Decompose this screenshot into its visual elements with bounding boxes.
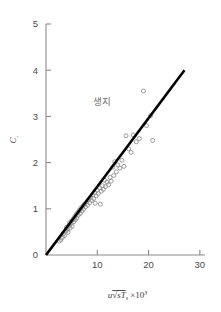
regression-line	[46, 70, 184, 255]
y-tick-label: 4	[33, 65, 38, 76]
y-tick-label: 5	[33, 18, 38, 29]
data-point	[93, 201, 97, 205]
x-tick-label: 20	[143, 259, 154, 270]
scatter-plot: 012345102030생지Cₐu√sTs ×103	[0, 0, 221, 312]
data-point	[134, 140, 138, 144]
y-tick-label: 3	[33, 111, 38, 122]
data-point	[122, 164, 126, 168]
y-axis-title: Cₐ	[8, 135, 19, 143]
data-point	[124, 134, 128, 138]
y-tick-label: 2	[33, 157, 38, 168]
data-point	[129, 150, 133, 154]
data-point	[151, 138, 155, 142]
data-point	[120, 158, 124, 162]
data-point	[114, 170, 118, 174]
data-point	[112, 174, 116, 178]
x-axis-title: u√sTs ×103	[108, 290, 148, 301]
data-point	[118, 166, 122, 170]
x-tick-label: 30	[195, 259, 206, 270]
chart-annotation: 생지	[93, 96, 111, 107]
data-point	[109, 179, 113, 183]
data-point	[98, 202, 102, 206]
y-tick-label: 1	[33, 203, 38, 214]
data-point	[137, 137, 141, 141]
chart-figure: 012345102030생지Cₐu√sTs ×103	[0, 0, 221, 312]
x-tick-label: 10	[92, 259, 103, 270]
data-point	[141, 89, 145, 93]
y-tick-label: 0	[33, 249, 38, 260]
